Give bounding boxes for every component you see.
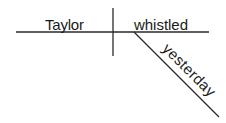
modifier-word: yesterday — [159, 40, 219, 100]
subject-word: Taylor — [45, 16, 84, 33]
verb-word: whistled — [133, 16, 188, 33]
sentence-diagram: Taylor whistled yesterday — [0, 0, 226, 123]
